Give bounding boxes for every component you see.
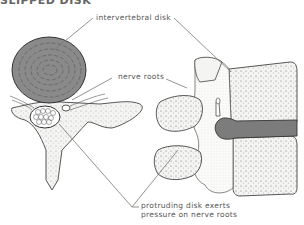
label-nerve-roots: nerve roots: [118, 72, 164, 81]
axial-view: [10, 37, 142, 190]
spine-illustration: [0, 0, 304, 225]
label-protruding-disk-line1: protruding disk exerts: [141, 201, 230, 210]
label-protruding-disk-line2: pressure on nerve roots: [141, 210, 237, 219]
protruding-disk: [215, 118, 297, 139]
label-intervertebral-disk: intervertebral disk: [96, 13, 171, 22]
lateral-view: [154, 57, 297, 196]
